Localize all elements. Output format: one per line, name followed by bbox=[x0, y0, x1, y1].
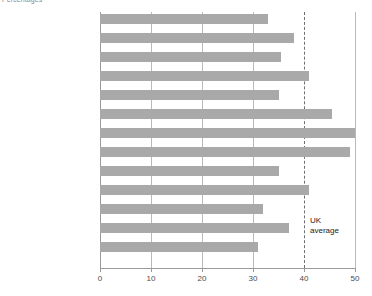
tick-mark bbox=[355, 268, 356, 272]
bar-west-midlands bbox=[100, 90, 279, 100]
tick-mark bbox=[151, 268, 152, 272]
tick-mark bbox=[202, 268, 203, 272]
uk-average-line bbox=[304, 12, 305, 268]
uk-average-annotation: UK average bbox=[310, 216, 339, 236]
tick-mark bbox=[100, 268, 101, 272]
bar-south-east bbox=[100, 147, 350, 157]
tick-mark bbox=[304, 268, 305, 272]
x-tick-label: 50 bbox=[351, 274, 360, 283]
x-tick-label: 40 bbox=[300, 274, 309, 283]
bar-east bbox=[100, 109, 332, 119]
bar-england bbox=[100, 185, 309, 195]
x-tick-label: 10 bbox=[147, 274, 156, 283]
bar-yorkshire-and-the-humber bbox=[100, 52, 281, 62]
chart-title: Percentages bbox=[2, 0, 42, 3]
gridline-50 bbox=[355, 12, 356, 268]
x-tick-label: 30 bbox=[249, 274, 258, 283]
bar-chart: Percentages North East North West Yorksh… bbox=[0, 0, 372, 296]
bar-london bbox=[100, 128, 355, 138]
uk-average-line1: UK bbox=[310, 216, 339, 226]
bar-north-east bbox=[100, 14, 268, 24]
x-tick-label: 20 bbox=[198, 274, 207, 283]
bar-south-west bbox=[100, 166, 279, 176]
uk-average-line2: average bbox=[310, 226, 339, 236]
bar-scotland bbox=[100, 223, 289, 233]
bar-north-west bbox=[100, 33, 294, 43]
x-tick-label: 0 bbox=[98, 274, 102, 283]
x-axis-line bbox=[100, 268, 356, 269]
bar-northern-ireland bbox=[100, 242, 258, 252]
bar-east-midlands bbox=[100, 71, 309, 81]
tick-mark bbox=[253, 268, 254, 272]
bar-wales bbox=[100, 204, 263, 214]
